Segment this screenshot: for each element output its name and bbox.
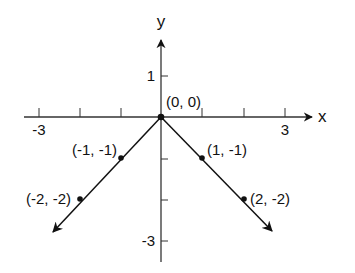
y-tick-label-one: 1 <box>147 67 155 84</box>
left-ray <box>53 117 161 232</box>
label-neg1-neg1: (-1, -1) <box>72 141 117 158</box>
point-origin <box>158 114 165 121</box>
label-2-neg2: (2, -2) <box>250 190 290 207</box>
point-neg2-neg2 <box>77 196 83 202</box>
function-graph <box>53 117 272 232</box>
right-ray <box>161 117 272 231</box>
point-2-neg2 <box>241 196 247 202</box>
x-tick-label-max: 3 <box>281 121 289 138</box>
label-origin: (0, 0) <box>166 93 201 110</box>
x-axis-label: x <box>318 107 327 126</box>
point-1-neg1 <box>199 155 205 161</box>
label-neg2-neg2: (-2, -2) <box>26 190 71 207</box>
y-tick-label-min: -3 <box>142 232 155 249</box>
x-tick-label-min: -3 <box>32 121 45 138</box>
point-neg1-neg1 <box>118 155 124 161</box>
chart: -3 3 x 1 -3 y (0, 0) (-1, -1) (-2, -2) (… <box>0 0 355 273</box>
x-axis: -3 3 x <box>24 107 327 138</box>
point-labels: (0, 0) (-1, -1) (-2, -2) (1, -1) (2, -2) <box>26 93 290 207</box>
y-axis-label: y <box>157 12 166 31</box>
label-1-neg1: (1, -1) <box>207 141 247 158</box>
y-axis: 1 -3 y <box>142 12 168 262</box>
